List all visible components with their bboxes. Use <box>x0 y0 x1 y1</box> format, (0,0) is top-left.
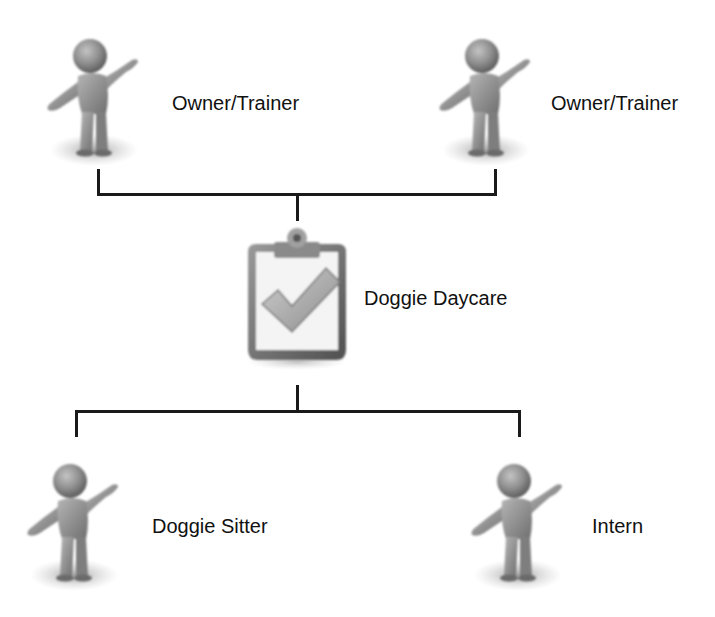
node-label: Intern <box>592 515 643 538</box>
person-figure-icon <box>18 455 128 595</box>
person-figure-icon <box>462 455 572 595</box>
node-label: Owner/Trainer <box>551 92 678 115</box>
connector-line <box>75 410 521 413</box>
connector-line <box>75 410 78 437</box>
node-label: Doggie Daycare <box>364 287 507 310</box>
connector-line <box>296 385 299 412</box>
node-label: Owner/Trainer <box>172 92 299 115</box>
connector-line <box>97 169 100 196</box>
diagram-canvas: Owner/Trainer Owner/Trainer <box>0 0 715 617</box>
person-figure-icon <box>430 30 540 170</box>
node-label: Doggie Sitter <box>152 515 268 538</box>
connector-line <box>518 410 521 437</box>
connector-line <box>494 169 497 196</box>
person-figure-icon <box>38 30 148 170</box>
clipboard-check-icon <box>240 222 354 372</box>
connector-line <box>296 195 299 221</box>
